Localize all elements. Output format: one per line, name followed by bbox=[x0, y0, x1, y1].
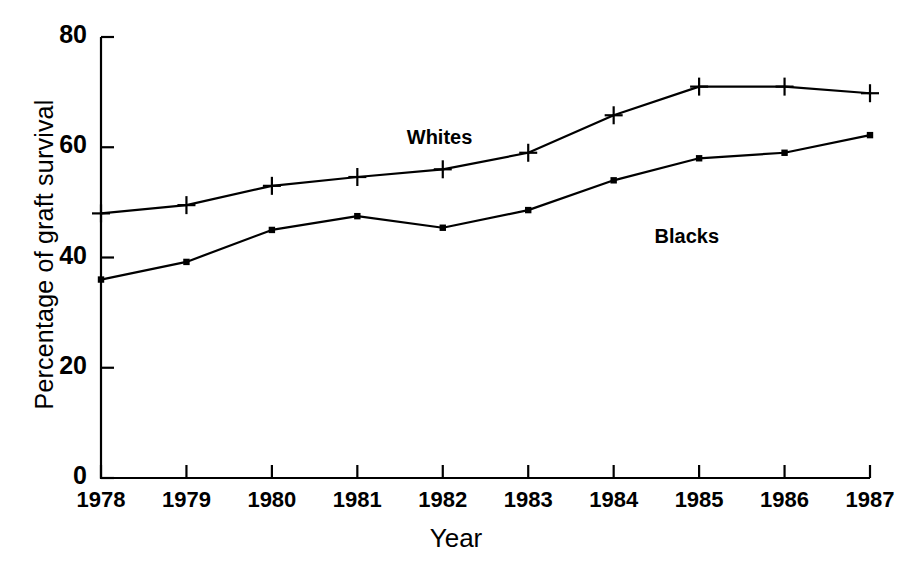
data-point-marker bbox=[776, 78, 794, 96]
data-point-marker bbox=[867, 132, 873, 138]
series-lines bbox=[101, 87, 870, 280]
y-tick-label: 0 bbox=[17, 461, 87, 490]
data-point-marker bbox=[440, 225, 446, 231]
x-tick-label: 1982 bbox=[398, 487, 488, 513]
y-axis-ticks bbox=[101, 37, 114, 478]
series-label-whites: Whites bbox=[407, 126, 473, 149]
data-point-marker bbox=[525, 207, 531, 213]
series-label-blacks: Blacks bbox=[655, 225, 720, 248]
x-tick-label: 1985 bbox=[654, 487, 744, 513]
data-point-marker bbox=[781, 150, 787, 156]
series-line-blacks bbox=[101, 135, 870, 279]
data-point-marker bbox=[183, 259, 189, 265]
data-point-marker bbox=[354, 213, 360, 219]
data-point-marker bbox=[519, 144, 537, 162]
x-tick-label: 1987 bbox=[825, 487, 912, 513]
data-point-marker bbox=[434, 160, 452, 178]
series-line-whites bbox=[101, 87, 870, 214]
x-tick-label: 1978 bbox=[56, 487, 146, 513]
data-point-marker bbox=[269, 227, 275, 233]
data-point-marker bbox=[263, 177, 281, 195]
x-tick-label: 1981 bbox=[312, 487, 402, 513]
x-tick-label: 1979 bbox=[141, 487, 231, 513]
y-tick-label: 40 bbox=[17, 241, 87, 270]
x-axis-ticks bbox=[101, 465, 870, 478]
y-tick-label: 60 bbox=[17, 130, 87, 159]
x-tick-label: 1984 bbox=[569, 487, 659, 513]
data-point-marker bbox=[690, 78, 708, 96]
chart-container: Percentage of graft survival Year 020406… bbox=[0, 0, 912, 572]
x-tick-label: 1980 bbox=[227, 487, 317, 513]
data-point-marker bbox=[610, 177, 616, 183]
y-tick-label: 20 bbox=[17, 351, 87, 380]
axis-lines bbox=[101, 37, 870, 478]
data-point-marker bbox=[98, 276, 104, 282]
data-point-marker bbox=[177, 196, 195, 214]
x-tick-label: 1983 bbox=[483, 487, 573, 513]
x-axis-title: Year bbox=[0, 523, 912, 554]
x-tick-label: 1986 bbox=[740, 487, 830, 513]
data-point-marker bbox=[861, 84, 879, 102]
y-tick-label: 80 bbox=[17, 20, 87, 49]
data-point-marker bbox=[348, 168, 366, 186]
data-point-marker bbox=[696, 155, 702, 161]
data-point-marker bbox=[92, 204, 110, 222]
data-point-marker bbox=[605, 106, 623, 124]
